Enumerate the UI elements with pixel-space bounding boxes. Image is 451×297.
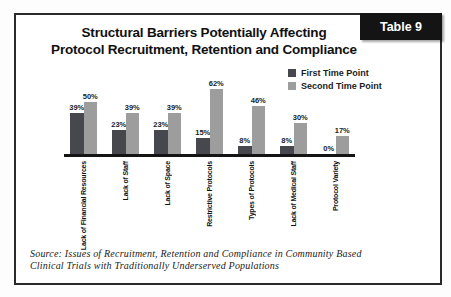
- bar-pair: 8%46%: [238, 96, 265, 154]
- plot-area: 39%50%23%39%23%39%15%62%8%46%8%30%0%17% …: [64, 79, 355, 259]
- x-axis-label: Protocol Variety: [332, 161, 339, 211]
- x-axis-label: Lack of Space: [164, 161, 171, 205]
- bar-value-label: 50%: [83, 92, 98, 101]
- bar-column: 46%: [252, 96, 266, 154]
- bar-column: 17%: [336, 126, 350, 154]
- x-axis-label-cell: Protocol Variety: [322, 161, 349, 259]
- bar-pair: 23%39%: [112, 103, 139, 154]
- bar-column: 50%: [84, 92, 98, 155]
- legend-row: First Time Point: [288, 68, 382, 78]
- bar-column: 39%: [70, 92, 84, 155]
- bar-column: 0%: [322, 126, 336, 154]
- bar-column: 39%: [168, 103, 182, 154]
- bar-value-label: 39%: [125, 103, 140, 112]
- bar-value-label: 8%: [239, 136, 250, 145]
- legend-label: First Time Point: [301, 68, 369, 78]
- bar: [294, 123, 308, 155]
- source-note: Source: Issues of Recruitment, Retention…: [30, 248, 430, 272]
- bar-column: 8%: [280, 113, 294, 155]
- chart-panel: Table 9 Structural Barriers Potentially …: [14, 13, 442, 285]
- chart-title-line2: Protocol Recruitment, Retention and Comp…: [16, 41, 392, 58]
- bar-pair: 15%62%: [196, 79, 223, 154]
- bar-column: 23%: [112, 103, 126, 154]
- x-axis-label: Types of Protocols: [248, 161, 255, 220]
- bar-column: 39%: [126, 103, 140, 154]
- x-axis-label-cell: Lack of Staff: [112, 161, 139, 259]
- bar: [84, 102, 98, 155]
- x-axis-label: Restrictive Protocols: [206, 161, 213, 227]
- bar: [280, 146, 294, 154]
- bar-value-label: 17%: [335, 126, 350, 135]
- bar: [154, 130, 168, 154]
- legend-swatch: [288, 69, 296, 77]
- bar: [210, 89, 224, 154]
- bar-value-label: 23%: [111, 120, 126, 129]
- bar-value-label: 46%: [251, 96, 266, 105]
- bar: [196, 138, 210, 154]
- chart-title-line1: Structural Barriers Potentially Affectin…: [16, 24, 392, 41]
- bar: [252, 106, 266, 154]
- x-axis-label-cell: Types of Protocols: [238, 161, 265, 259]
- bar-column: 8%: [238, 96, 252, 154]
- bar-value-label: 62%: [209, 79, 224, 88]
- source-line1: Source: Issues of Recruitment, Retention…: [30, 248, 430, 260]
- bar: [168, 113, 182, 154]
- bar: [238, 146, 252, 154]
- bar-value-label: 15%: [195, 128, 210, 137]
- bar-value-label: 39%: [69, 103, 84, 112]
- source-line2: Clinical Trials with Traditionally Under…: [30, 260, 430, 272]
- bar-value-label: 30%: [293, 113, 308, 122]
- bar: [336, 136, 350, 154]
- x-axis-labels: Lack of Financial ResourcesLack of Staff…: [64, 161, 355, 259]
- bar-pair: 39%50%: [70, 92, 97, 155]
- x-axis-label-cell: Lack of Space: [154, 161, 181, 259]
- bar-value-label: 0%: [323, 144, 334, 153]
- bar: [70, 113, 84, 154]
- bar-column: 15%: [196, 79, 210, 154]
- bar-column: 62%: [210, 79, 224, 154]
- x-axis-label: Lack of Staff: [122, 161, 129, 200]
- bars-row: 39%50%23%39%23%39%15%62%8%46%8%30%0%17%: [64, 79, 355, 157]
- x-axis-label: Lack of Financial Resources: [80, 161, 87, 250]
- bar-value-label: 23%: [153, 120, 168, 129]
- bar-pair: 23%39%: [154, 103, 181, 154]
- bar-value-label: 8%: [281, 136, 292, 145]
- bar: [126, 113, 140, 154]
- bar-pair: 8%30%: [280, 113, 307, 155]
- bar-column: 23%: [154, 103, 168, 154]
- x-axis-label-cell: Restrictive Protocols: [196, 161, 223, 259]
- bar-value-label: 39%: [167, 103, 182, 112]
- bar: [112, 130, 126, 154]
- bar-pair: 0%17%: [322, 126, 349, 154]
- x-axis-label-cell: Lack of Medical Staff: [280, 161, 307, 259]
- bar-column: 30%: [294, 113, 308, 155]
- chart-title: Structural Barriers Potentially Affectin…: [16, 24, 392, 58]
- x-axis-label: Lack of Medical Staff: [290, 161, 297, 226]
- x-axis-label-cell: Lack of Financial Resources: [70, 161, 97, 259]
